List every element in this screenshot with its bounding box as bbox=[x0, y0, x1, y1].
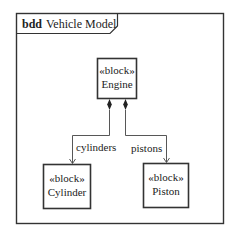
cylinder-name: Cylinder bbox=[48, 186, 87, 198]
diagram-header: bddVehicle Model bbox=[22, 17, 117, 31]
block-engine[interactable]: «block» Engine bbox=[98, 59, 137, 99]
engine-name: Engine bbox=[101, 78, 132, 90]
block-piston[interactable]: «block» Piston bbox=[144, 164, 189, 208]
block-cylinder[interactable]: «block» Cylinder bbox=[44, 165, 91, 209]
cylinder-stereotype: «block» bbox=[49, 172, 84, 184]
piston-stereotype: «block» bbox=[148, 171, 183, 183]
role-pistons: pistons bbox=[131, 142, 162, 154]
piston-name: Piston bbox=[152, 185, 180, 197]
diagram-kind: bdd bbox=[22, 17, 42, 31]
bdd-diagram: bddVehicle Model «block» Engine cylinder… bbox=[0, 0, 237, 239]
engine-stereotype: «block» bbox=[99, 64, 134, 76]
role-cylinders: cylinders bbox=[76, 141, 116, 153]
diagram-title: Vehicle Model bbox=[46, 17, 117, 31]
